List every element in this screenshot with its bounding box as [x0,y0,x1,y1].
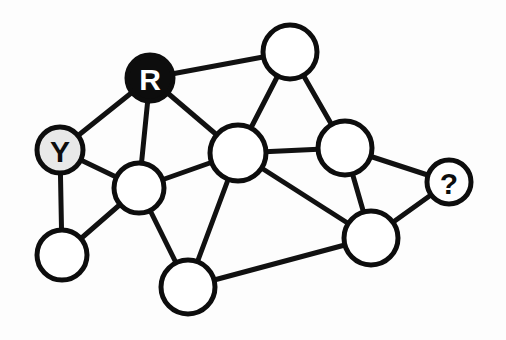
graph-svg: RY? [0,0,506,340]
graph-node-bottom-center[interactable] [161,260,215,314]
node-circle[interactable] [318,121,372,175]
node-circle[interactable] [37,230,87,280]
graph-node-bottom-left[interactable] [37,230,87,280]
graph-node-right-mid[interactable] [318,121,372,175]
graph-node-center[interactable] [210,125,266,181]
graph-diagram-canvas: RY? [0,0,506,340]
node-circle[interactable] [344,211,398,265]
node-label: Y [50,135,70,168]
graph-node-top[interactable] [263,25,317,79]
graph-node-red[interactable]: R [127,55,173,101]
graph-node-bottom-right[interactable] [344,211,398,265]
node-circle[interactable] [263,25,317,79]
graph-node-left-mid[interactable] [114,163,164,213]
graph-node-unknown[interactable]: ? [427,160,471,204]
graph-node-yellow[interactable]: Y [37,127,83,173]
node-circle[interactable] [161,260,215,314]
node-label: R [139,63,161,96]
node-circle[interactable] [210,125,266,181]
node-circle[interactable] [114,163,164,213]
node-label: ? [440,167,458,200]
